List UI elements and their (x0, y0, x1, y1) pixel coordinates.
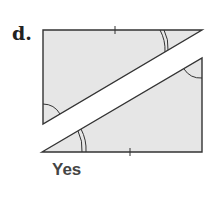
congruent-triangles-figure (0, 0, 205, 201)
answer-text: Yes (52, 160, 81, 180)
problem-d: d. Yes (0, 0, 205, 201)
